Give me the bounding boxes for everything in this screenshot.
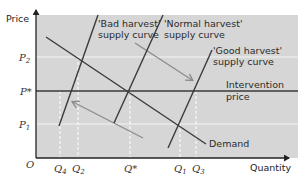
origin-label: O: [26, 159, 34, 170]
supply-demand-diagram: Price Quantity O P2 P* P1 Q4 Q2 Q* Q1 Q3…: [0, 0, 300, 185]
p2-label: P2: [18, 52, 31, 65]
price-axis-label: Price: [6, 13, 29, 24]
intervention-label-line2: price: [226, 91, 250, 102]
intervention-label-line1: Intervention: [226, 79, 284, 90]
good-harvest-label-line2: supply curve: [213, 56, 274, 67]
pstar-label: P*: [19, 86, 32, 97]
q1-label: Q1: [174, 163, 187, 176]
q3-label: Q3: [192, 163, 205, 176]
good-harvest-label-line1: 'Good harvest': [213, 45, 282, 56]
p1-label: P1: [18, 119, 30, 132]
bad-harvest-label-line1: 'Bad harvest': [98, 18, 161, 29]
normal-harvest-label-line1: 'Normal harvest': [164, 18, 243, 29]
q4-label: Q4: [54, 163, 67, 176]
demand-label: Demand: [209, 138, 249, 149]
qstar-label: Q*: [124, 163, 137, 174]
quantity-axis-label: Quantity: [250, 162, 291, 173]
q2-label: Q2: [72, 163, 85, 176]
bad-harvest-label-line2: supply curve: [98, 29, 159, 40]
normal-harvest-label-line2: supply curve: [164, 29, 225, 40]
